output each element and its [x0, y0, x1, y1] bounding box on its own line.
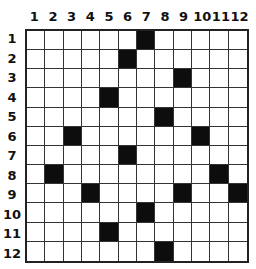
- grid-cell[interactable]: [100, 146, 118, 165]
- grid-cell-filled[interactable]: [174, 69, 192, 88]
- grid-cell[interactable]: [174, 146, 192, 165]
- grid-cell[interactable]: [229, 88, 247, 107]
- grid-cell[interactable]: [155, 203, 173, 222]
- grid-cell[interactable]: [229, 50, 247, 69]
- grid-cell[interactable]: [82, 203, 100, 222]
- grid-cell[interactable]: [229, 242, 247, 261]
- grid-cell[interactable]: [119, 165, 137, 184]
- grid-cell[interactable]: [64, 223, 82, 242]
- grid-cell[interactable]: [155, 223, 173, 242]
- grid-cell[interactable]: [45, 127, 63, 146]
- grid-cell[interactable]: [229, 165, 247, 184]
- grid-cell[interactable]: [155, 165, 173, 184]
- grid-cell[interactable]: [210, 127, 228, 146]
- grid-cell[interactable]: [155, 146, 173, 165]
- grid-cell[interactable]: [82, 127, 100, 146]
- grid-cell[interactable]: [64, 242, 82, 261]
- grid-cell[interactable]: [82, 242, 100, 261]
- grid-cell[interactable]: [192, 108, 210, 127]
- grid-cell[interactable]: [27, 242, 45, 261]
- grid-cell[interactable]: [82, 50, 100, 69]
- grid-cell[interactable]: [192, 88, 210, 107]
- grid-cell[interactable]: [45, 31, 63, 50]
- grid-cell[interactable]: [100, 165, 118, 184]
- grid-cell-filled[interactable]: [137, 31, 155, 50]
- grid-cell-filled[interactable]: [64, 127, 82, 146]
- grid-cell[interactable]: [64, 184, 82, 203]
- grid-cell[interactable]: [27, 127, 45, 146]
- grid-cell[interactable]: [27, 108, 45, 127]
- grid-cell[interactable]: [100, 242, 118, 261]
- grid-cell[interactable]: [174, 242, 192, 261]
- grid-cell[interactable]: [192, 223, 210, 242]
- grid-cell[interactable]: [174, 31, 192, 50]
- grid-cell[interactable]: [174, 203, 192, 222]
- grid-cell[interactable]: [45, 184, 63, 203]
- grid-cell-filled[interactable]: [100, 88, 118, 107]
- grid-cell[interactable]: [192, 203, 210, 222]
- grid-cell-filled[interactable]: [100, 223, 118, 242]
- grid-cell[interactable]: [137, 108, 155, 127]
- grid-cell[interactable]: [155, 88, 173, 107]
- grid-cell[interactable]: [174, 127, 192, 146]
- grid-cell[interactable]: [82, 69, 100, 88]
- grid-cell[interactable]: [155, 50, 173, 69]
- grid-cell[interactable]: [100, 203, 118, 222]
- grid-cell[interactable]: [27, 31, 45, 50]
- grid-cell[interactable]: [174, 108, 192, 127]
- grid-cell[interactable]: [210, 146, 228, 165]
- grid-cell[interactable]: [119, 223, 137, 242]
- grid-cell[interactable]: [137, 50, 155, 69]
- grid-cell[interactable]: [192, 69, 210, 88]
- grid-cell[interactable]: [64, 31, 82, 50]
- grid-cell-filled[interactable]: [119, 146, 137, 165]
- grid-cell[interactable]: [137, 242, 155, 261]
- grid-cell[interactable]: [82, 165, 100, 184]
- grid-cell[interactable]: [137, 127, 155, 146]
- grid-cell[interactable]: [27, 88, 45, 107]
- grid-cell[interactable]: [155, 127, 173, 146]
- grid-cell-filled[interactable]: [119, 50, 137, 69]
- grid-cell[interactable]: [119, 31, 137, 50]
- grid-cell[interactable]: [119, 88, 137, 107]
- grid-cell[interactable]: [229, 127, 247, 146]
- grid-cell[interactable]: [82, 88, 100, 107]
- grid-cell[interactable]: [45, 50, 63, 69]
- grid-cell[interactable]: [82, 146, 100, 165]
- grid-cell-filled[interactable]: [45, 165, 63, 184]
- grid-cell[interactable]: [137, 88, 155, 107]
- grid-cell[interactable]: [100, 31, 118, 50]
- grid-cell[interactable]: [27, 223, 45, 242]
- grid-cell-filled[interactable]: [192, 127, 210, 146]
- grid-cell[interactable]: [210, 184, 228, 203]
- grid-cell[interactable]: [27, 184, 45, 203]
- grid-cell[interactable]: [45, 242, 63, 261]
- grid-cell[interactable]: [45, 88, 63, 107]
- grid-cell[interactable]: [192, 146, 210, 165]
- grid-cell[interactable]: [229, 31, 247, 50]
- grid-cell[interactable]: [119, 108, 137, 127]
- grid-cell[interactable]: [82, 223, 100, 242]
- grid-cell[interactable]: [174, 223, 192, 242]
- grid-cell[interactable]: [192, 184, 210, 203]
- grid-cell[interactable]: [119, 242, 137, 261]
- grid-cell-filled[interactable]: [174, 184, 192, 203]
- grid-cell[interactable]: [64, 50, 82, 69]
- grid-cell[interactable]: [192, 31, 210, 50]
- grid-cell[interactable]: [137, 184, 155, 203]
- grid-cell[interactable]: [229, 69, 247, 88]
- grid-cell[interactable]: [119, 127, 137, 146]
- grid-cell[interactable]: [82, 108, 100, 127]
- grid-cell[interactable]: [229, 223, 247, 242]
- grid-cell[interactable]: [137, 165, 155, 184]
- grid-cell[interactable]: [210, 50, 228, 69]
- grid-cell[interactable]: [229, 146, 247, 165]
- grid-cell[interactable]: [210, 88, 228, 107]
- grid-cell[interactable]: [64, 203, 82, 222]
- grid-cell[interactable]: [174, 50, 192, 69]
- grid-cell[interactable]: [174, 165, 192, 184]
- grid-cell[interactable]: [45, 223, 63, 242]
- grid-cell[interactable]: [27, 203, 45, 222]
- grid-cell[interactable]: [192, 242, 210, 261]
- grid-cell[interactable]: [100, 184, 118, 203]
